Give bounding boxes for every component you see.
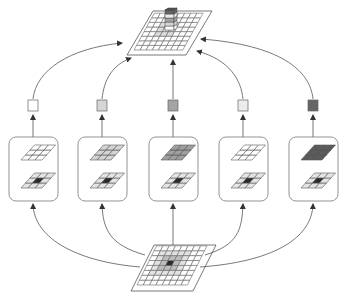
diagram-svg [0, 0, 341, 297]
output-value-squares [28, 100, 318, 111]
kernel-card-3 [149, 137, 198, 201]
diagram-canvas [0, 0, 341, 297]
output-square-4 [238, 100, 248, 111]
kernel-card-5 [289, 137, 338, 201]
kernel-card-4 [219, 137, 268, 201]
output-square-2 [97, 100, 107, 111]
output-square-5 [308, 100, 318, 111]
card-to-square-arrows [33, 115, 313, 137]
input-feature-plane [131, 245, 216, 291]
kernel-cards [9, 137, 338, 201]
output-square-3 [168, 100, 178, 111]
output-square-1 [28, 100, 38, 111]
kernel-card-1 [9, 137, 58, 201]
output-feature-plane [127, 8, 212, 55]
kernel-card-2 [78, 137, 127, 201]
stacked-output-block [165, 8, 177, 30]
